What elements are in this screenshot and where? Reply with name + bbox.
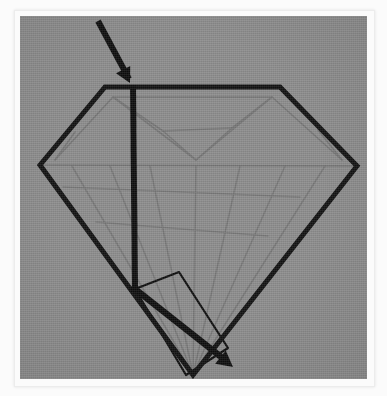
facet-line <box>110 166 193 375</box>
pavilion-facet-lines <box>63 166 325 375</box>
diagram-canvas <box>20 16 367 379</box>
crown-facet-lines <box>40 87 357 166</box>
diamond-light-path-diagram <box>20 16 367 379</box>
facet-line <box>113 97 196 160</box>
facet-line <box>193 166 196 375</box>
facet-line <box>163 131 196 160</box>
figure-root: Light ray path through a brilliant-cut d… <box>0 0 387 396</box>
facet-line <box>40 165 357 166</box>
facet-line <box>272 97 342 160</box>
facet-line <box>163 128 232 131</box>
facet-line <box>63 187 300 197</box>
reflected-ray <box>135 289 225 360</box>
facet-line <box>232 97 272 128</box>
facet-line <box>113 97 163 131</box>
facet-line <box>193 166 325 375</box>
facet-line <box>196 128 232 160</box>
facet-line <box>96 222 268 236</box>
refracted-ray <box>133 85 135 289</box>
facet-line <box>55 97 113 160</box>
reflection-point-marker <box>131 285 139 293</box>
